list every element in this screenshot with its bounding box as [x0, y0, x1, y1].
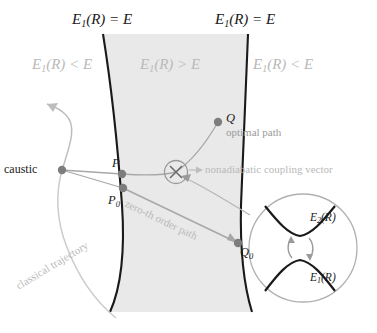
- zeroth-order-path-line: [62, 170, 123, 188]
- marker-point-q: [214, 118, 222, 126]
- classical-trajectory-lower-curve: [58, 170, 116, 318]
- marker-point-q0: [234, 239, 242, 247]
- diagram-canvas: [0, 0, 377, 333]
- marker-point-p0: [119, 184, 127, 192]
- nonadiabatic-tunneling-diagram: E1(R) = E E1(R) = E E1(R) < E E1(R) > E …: [0, 0, 377, 333]
- inset-magnifier-circle: [249, 194, 357, 302]
- marker-caustic-point: [58, 166, 66, 174]
- marker-point-p: [118, 170, 126, 178]
- classical-trajectory-curve: [47, 104, 72, 170]
